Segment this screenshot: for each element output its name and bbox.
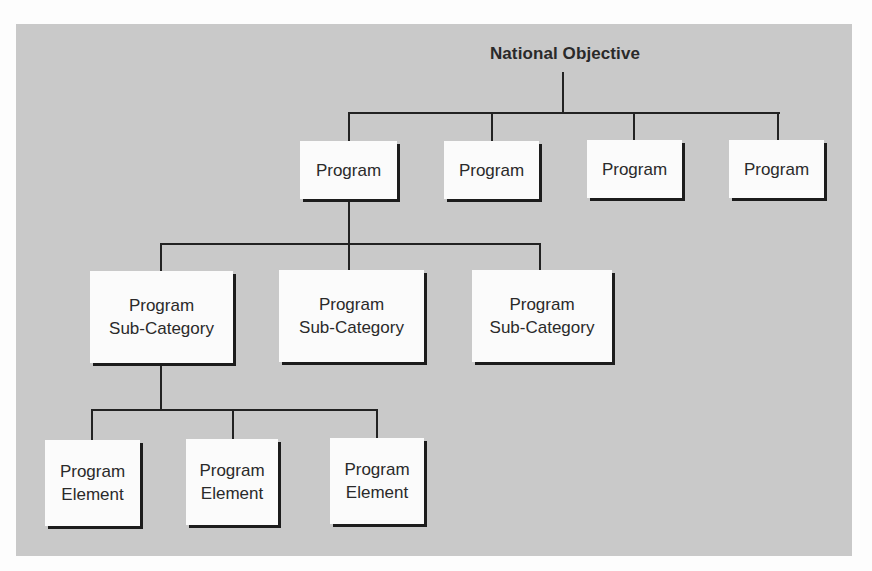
connector-subcategory-2: [348, 243, 350, 271]
connector-subcategories-bus: [160, 243, 541, 245]
program-node-3: Program: [587, 140, 682, 198]
element-node-label: Program Element: [344, 458, 409, 504]
connector-subcategory-3: [539, 243, 541, 271]
connector-subcategory-1: [160, 243, 162, 271]
connector-elements-bus: [91, 409, 378, 411]
connector-root-down: [562, 72, 564, 114]
connector-program-4: [777, 112, 779, 141]
connector-element-1: [91, 409, 93, 440]
connector-program-1-down: [348, 202, 350, 244]
subcategory-node-label: Program Sub-Category: [109, 294, 214, 340]
program-node-label: Program: [459, 159, 524, 182]
program-node-label: Program: [316, 159, 381, 182]
subcategory-node-label: Program Sub-Category: [299, 293, 404, 339]
element-node-2: Program Element: [186, 439, 278, 525]
root-node-national-objective: National Objective: [470, 44, 660, 64]
program-node-label: Program: [602, 158, 667, 181]
program-node-1: Program: [300, 141, 397, 199]
element-node-label: Program Element: [199, 459, 264, 505]
element-node-3: Program Element: [330, 438, 424, 524]
connector-program-1: [348, 112, 350, 141]
connector-program-2: [491, 112, 493, 141]
connector-element-2: [232, 409, 234, 440]
connector-element-3: [376, 409, 378, 440]
connector-subcategory-1-down: [160, 366, 162, 410]
element-node-1: Program Element: [45, 440, 140, 526]
program-node-2: Program: [444, 141, 539, 199]
program-node-label: Program: [744, 158, 809, 181]
program-node-4: Program: [729, 140, 824, 198]
subcategory-node-label: Program Sub-Category: [490, 293, 595, 339]
element-node-label: Program Element: [60, 460, 125, 506]
connector-programs-bus: [348, 112, 780, 114]
subcategory-node-1: Program Sub-Category: [90, 271, 233, 363]
subcategory-node-3: Program Sub-Category: [472, 270, 612, 362]
connector-program-3: [633, 112, 635, 141]
subcategory-node-2: Program Sub-Category: [279, 270, 424, 362]
